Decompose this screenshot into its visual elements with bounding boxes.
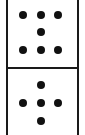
pip-top-icon (37, 46, 45, 54)
pip-bottom-icon (19, 99, 27, 107)
pip-bottom-icon (37, 117, 45, 125)
pip-top-icon (19, 46, 27, 54)
pip-top-icon (54, 46, 62, 54)
domino-tile[interactable] (6, 0, 79, 135)
pip-bottom-icon (37, 99, 45, 107)
pip-top-icon (19, 11, 27, 19)
pip-top-icon (37, 11, 45, 19)
pip-bottom-icon (54, 99, 62, 107)
pip-top-icon (37, 28, 45, 36)
pip-top-icon (54, 11, 62, 19)
domino-divider (8, 67, 77, 69)
pip-bottom-icon (37, 81, 45, 89)
